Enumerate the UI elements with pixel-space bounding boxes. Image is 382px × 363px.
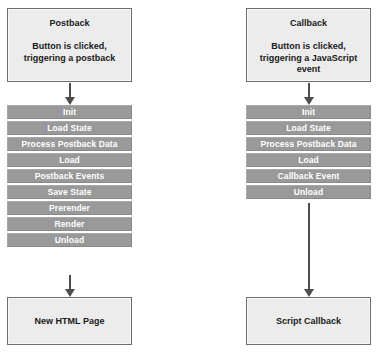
callback-end-box: Script Callback bbox=[246, 297, 371, 345]
arrow-head-icon bbox=[65, 97, 75, 105]
postback-step: Load bbox=[7, 153, 132, 167]
callback-start-body-line-1: Button is clicked, bbox=[260, 41, 358, 53]
callback-column: Callback Button is clicked, triggering a… bbox=[246, 0, 371, 363]
callback-start-box: Callback Button is clicked, triggering a… bbox=[246, 8, 371, 82]
callback-step: Process Postback Data bbox=[246, 137, 371, 151]
callback-steps-to-end-arrow bbox=[308, 203, 310, 289]
callback-end-title: Script Callback bbox=[276, 316, 341, 327]
postback-step: Postback Events bbox=[7, 169, 132, 183]
postback-step: Unload bbox=[7, 233, 132, 247]
postback-start-title: Postback bbox=[49, 18, 89, 29]
postback-start-to-steps-arrow bbox=[69, 83, 71, 97]
postback-start-body-line-1: Button is clicked, bbox=[24, 41, 116, 53]
callback-step: Load State bbox=[246, 121, 371, 135]
postback-step-list: Init Load State Process Postback Data Lo… bbox=[7, 105, 132, 249]
postback-column: Postback Button is clicked, triggering a… bbox=[7, 0, 132, 363]
callback-start-title: Callback bbox=[290, 18, 327, 29]
postback-end-title: New HTML Page bbox=[35, 316, 105, 327]
lifecycle-diagram: Postback Button is clicked, triggering a… bbox=[0, 0, 382, 363]
postback-step: Load State bbox=[7, 121, 132, 135]
arrow-head-icon bbox=[65, 289, 75, 297]
postback-step: Init bbox=[7, 105, 132, 119]
callback-start-body: Button is clicked, triggering a JavaScri… bbox=[254, 41, 364, 76]
callback-step-list: Init Load State Process Postback Data Lo… bbox=[246, 105, 371, 201]
callback-step: Unload bbox=[246, 185, 371, 199]
postback-steps-to-end-arrow bbox=[69, 275, 71, 289]
postback-step: Render bbox=[7, 217, 132, 231]
postback-start-box: Postback Button is clicked, triggering a… bbox=[7, 8, 132, 82]
callback-start-body-line-2: triggering a JavaScript bbox=[260, 53, 358, 65]
postback-step: Prerender bbox=[7, 201, 132, 215]
arrow-head-icon bbox=[304, 97, 314, 105]
postback-step: Process Postback Data bbox=[7, 137, 132, 151]
callback-start-to-steps-arrow bbox=[308, 83, 310, 97]
arrow-head-icon bbox=[304, 289, 314, 297]
callback-start-body-line-3: event bbox=[260, 64, 358, 76]
callback-step: Load bbox=[246, 153, 371, 167]
postback-step: Save State bbox=[7, 185, 132, 199]
callback-step: Callback Event bbox=[246, 169, 371, 183]
postback-start-body: Button is clicked, triggering a postback bbox=[18, 41, 122, 64]
callback-step: Init bbox=[246, 105, 371, 119]
postback-start-body-line-2: triggering a postback bbox=[24, 53, 116, 65]
postback-end-box: New HTML Page bbox=[7, 297, 132, 345]
